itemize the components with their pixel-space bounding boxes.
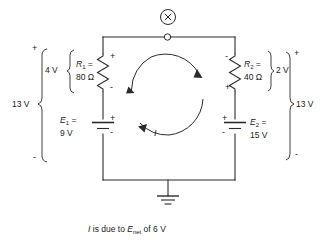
e1-plus-sign: + [110,114,115,123]
caption-enet-subscript: net [133,229,141,235]
resistor-r1-symbol [98,53,109,92]
right-bracket-value: 13 V [296,100,314,110]
r2-minus-sign: - [225,52,228,61]
current-arrowhead-right [194,69,203,78]
e1-ref-label: E1 = [60,116,76,127]
r1-drop-value: 4 V [45,66,58,76]
left-bracket-minus-sign: - [33,153,36,162]
r2-value-label: 40 Ω [244,73,262,83]
r1-value-label: 80 Ω [76,73,94,83]
r2-drop-value: 2 V [276,66,289,76]
r1-ref-label: R1 = [76,60,93,71]
r2-ref-label: R2 = [244,60,261,71]
current-arrowhead-bottom [138,124,147,133]
circuit-diagram-figure: + 13 V - 4 V R1 = 80 Ω + - E1 = 9 V + - … [0,0,330,243]
bracket-r1-drop [67,50,74,93]
right-bracket-minus-sign: - [295,150,298,159]
e2-value-label: 15 V [250,131,268,141]
battery-e2-symbol [224,123,246,129]
e1-value-label: 9 V [60,129,73,139]
current-arrowhead-left [126,87,135,94]
caption-mid-text: is due to [90,224,127,234]
meter-x-icon [161,10,176,25]
r1-minus-sign: - [110,83,113,92]
current-label: I [154,128,157,138]
right-bracket-plus-sign: + [294,49,299,58]
left-bracket-value: 13 V [12,100,30,110]
bracket-r2-drop [268,51,274,91]
e2-plus-sign: + [222,114,227,123]
resistor-r2-symbol [230,53,241,92]
r1-plus-sign: + [110,52,115,61]
left-bracket-plus-sign: + [32,44,37,53]
caption-tail-text: of 6 V [141,224,166,234]
terminal-open-circle-icon [164,34,170,40]
figure-caption: I is due to Enet of 6 V [88,224,166,235]
circuit-schematic-canvas [0,0,330,243]
ground-symbol-icon [157,196,179,204]
current-loop-arrow [132,54,204,135]
r2-plus-sign: + [225,83,230,92]
e2-minus-sign: - [222,128,225,137]
e2-ref-label: E2 = [250,118,266,129]
e1-minus-sign: - [110,128,113,137]
